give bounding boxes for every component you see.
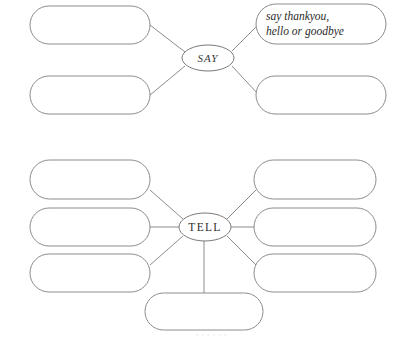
tell-node-right-middle[interactable] xyxy=(254,208,376,246)
tell-node-left-top[interactable] xyxy=(30,160,150,199)
tell-node-left-middle[interactable] xyxy=(30,208,150,246)
say-hub-label: SAY xyxy=(197,52,219,64)
connector-tell-right-bottom xyxy=(227,236,256,265)
connector-say-right-top xyxy=(232,25,258,51)
connector-tell-left-top xyxy=(150,190,183,219)
tell-node-right-top[interactable] xyxy=(254,160,376,199)
connector-say-left-bottom xyxy=(150,66,185,95)
say-node-right-bottom[interactable] xyxy=(256,76,386,114)
tell-node-right-bottom[interactable] xyxy=(254,254,376,292)
tell-node-bottom[interactable] xyxy=(145,293,263,330)
say-node-left-top[interactable] xyxy=(30,6,150,44)
tell-hub-label: TELL xyxy=(188,221,221,233)
say-node-right-top[interactable] xyxy=(256,4,386,44)
say-hub[interactable]: SAY xyxy=(182,45,234,71)
tell-hub[interactable]: TELL xyxy=(179,213,231,241)
scan-artifact: • • • • • • xyxy=(196,331,386,347)
connector-tell-left-bottom xyxy=(150,236,183,265)
tell-connectors xyxy=(150,190,256,293)
connector-tell-right-top xyxy=(227,190,256,219)
diagram-canvas: SAY TELL xyxy=(0,0,394,349)
connector-say-left-top xyxy=(150,25,185,52)
connector-say-right-bottom xyxy=(232,66,258,94)
mind-map-diagram: SAY TELL say thankyou, hel xyxy=(0,0,394,349)
tell-node-left-bottom[interactable] xyxy=(30,254,150,292)
tell-nodes xyxy=(30,160,376,330)
say-node-left-bottom[interactable] xyxy=(30,76,150,114)
